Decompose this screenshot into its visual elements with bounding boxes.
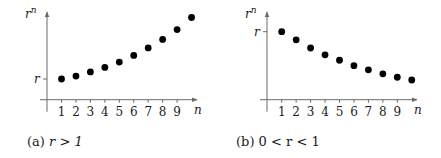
- x-tick-label: 1: [58, 105, 66, 119]
- x-tick-label: 4: [321, 105, 329, 119]
- data-point: [58, 76, 65, 83]
- data-points: [278, 28, 415, 83]
- x-ticks: 123456789: [278, 100, 401, 119]
- data-point: [159, 36, 166, 43]
- data-point: [365, 66, 372, 73]
- x-tick-label: 8: [379, 105, 387, 119]
- chart-panel-a: rn n r 123456789 (a) r > 1: [25, 5, 202, 149]
- x-tick-label: 9: [173, 105, 181, 119]
- x-tick-label: 6: [350, 105, 358, 119]
- caption-a: (a) r > 1: [27, 134, 83, 149]
- data-point: [101, 64, 108, 71]
- x-tick-label: 2: [292, 105, 300, 119]
- caption-b: (b) 0 < r < 1: [236, 134, 320, 149]
- data-point: [408, 77, 415, 84]
- data-point: [174, 26, 181, 33]
- x-tick-label: 4: [101, 105, 109, 119]
- x-tick-label: 1: [278, 105, 286, 119]
- x-tick-label: 5: [115, 105, 123, 119]
- x-tick-label: 3: [87, 105, 95, 119]
- y-tick-label: r: [254, 25, 261, 39]
- data-point: [293, 36, 300, 43]
- x-tick-label: 3: [307, 105, 315, 119]
- data-point: [351, 62, 358, 69]
- data-point: [188, 14, 195, 21]
- x-tick-label: 9: [393, 105, 401, 119]
- data-point: [379, 70, 386, 77]
- figure: rn n r 123456789 (a) r > 1 rn n r 123456…: [0, 0, 441, 158]
- y-tick-label: r: [34, 72, 41, 86]
- data-point: [322, 51, 329, 58]
- data-point: [307, 45, 314, 52]
- y-axis-label: rn: [25, 5, 37, 21]
- x-axis-label: n: [414, 103, 422, 117]
- chart-panel-b: rn n r 123456789 (b) 0 < r < 1: [236, 5, 422, 149]
- x-tick-label: 7: [365, 105, 373, 119]
- x-tick-label: 2: [72, 105, 80, 119]
- data-point: [336, 57, 343, 64]
- data-point: [278, 28, 285, 35]
- data-point: [130, 52, 137, 59]
- x-tick-label: 5: [336, 105, 344, 119]
- y-axis-label: rn: [245, 5, 257, 21]
- data-point: [394, 74, 401, 81]
- x-ticks: 123456789: [58, 100, 181, 119]
- data-point: [116, 59, 123, 66]
- x-tick-label: 7: [144, 105, 152, 119]
- data-point: [87, 69, 94, 76]
- x-axis-label: n: [194, 103, 202, 117]
- data-points: [58, 14, 195, 82]
- x-tick-label: 6: [130, 105, 138, 119]
- data-point: [73, 73, 80, 80]
- x-tick-label: 8: [159, 105, 167, 119]
- data-point: [145, 45, 152, 52]
